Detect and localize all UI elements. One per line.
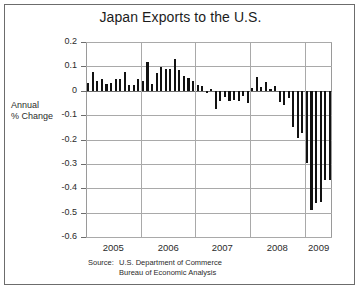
bar (297, 91, 299, 138)
y-axis-tick-label: 0.2 (43, 36, 77, 46)
bar (256, 77, 258, 91)
bar (146, 62, 148, 90)
plot-area: 0.20.10-0.1-0.2-0.3-0.4-0.5-0.6 20052006… (86, 42, 332, 237)
bar (215, 91, 217, 110)
bar (247, 91, 249, 103)
bar (292, 91, 294, 127)
chart-figure: Japan Exports to the U.S. Annual % Chang… (0, 0, 361, 293)
bar (96, 81, 98, 91)
bar (178, 70, 180, 91)
x-axis-tick-label: 2007 (202, 242, 242, 253)
bar (242, 91, 244, 96)
bar (283, 91, 285, 105)
zero-line (86, 91, 332, 92)
chart-title: Japan Exports to the U.S. (0, 9, 361, 25)
bar (306, 91, 308, 163)
bar (124, 72, 126, 91)
gridline (86, 213, 332, 214)
bar (128, 85, 130, 90)
bar (115, 79, 117, 91)
source-line-1: U.S. Department of Commerce (119, 258, 222, 267)
bar (279, 91, 281, 103)
x-axis-tick-label: 2009 (299, 242, 339, 253)
bar (137, 79, 139, 91)
y-axis-tick-label: -0.4 (43, 182, 77, 192)
bar (324, 91, 326, 181)
y-axis-tick (81, 188, 86, 189)
bar (87, 83, 89, 90)
gridline (86, 140, 332, 141)
gridline (86, 66, 332, 67)
x-axis-tick-label: 2006 (148, 242, 188, 253)
gridline (86, 188, 332, 189)
bar (233, 91, 235, 100)
y-axis-tick-label: 0.1 (43, 60, 77, 70)
bar (192, 81, 194, 91)
bar (206, 91, 208, 93)
year-gridline (195, 42, 196, 237)
y-axis-tick (81, 164, 86, 165)
bar (169, 69, 171, 91)
bar (329, 91, 331, 180)
bar (210, 89, 212, 91)
gridline (86, 42, 332, 43)
bar (288, 91, 290, 99)
y-axis-tick-label: -0.1 (43, 109, 77, 119)
bar (238, 91, 240, 101)
bar (260, 87, 262, 91)
bar (92, 72, 94, 91)
y-axis-tick-label: -0.5 (43, 207, 77, 217)
y-axis-tick-label: -0.6 (43, 231, 77, 241)
bar (133, 85, 135, 90)
y-axis-tick-label: 0 (43, 85, 77, 95)
bar (105, 84, 107, 91)
source-note: Source:U.S. Department of Commerce Burea… (88, 258, 222, 278)
bar (142, 81, 144, 90)
bar (274, 86, 276, 91)
source-line-2: Bureau of Economic Analysis (119, 268, 222, 278)
y-axis-tick (81, 237, 86, 238)
bar (269, 89, 271, 91)
bar (165, 69, 167, 91)
y-axis-tick (81, 66, 86, 67)
y-axis-tick (81, 115, 86, 116)
bar (224, 91, 226, 97)
bar (301, 91, 303, 133)
gridline (86, 115, 332, 116)
bar (219, 91, 221, 102)
bar (310, 91, 312, 210)
gridline (86, 237, 332, 238)
x-axis-tick-label: 2008 (257, 242, 297, 253)
bar (110, 83, 112, 90)
bar (151, 84, 153, 91)
bar (183, 76, 185, 91)
bar (160, 67, 162, 91)
year-gridline (250, 42, 251, 237)
y-axis-tick (81, 42, 86, 43)
bar (197, 85, 199, 91)
y-axis-tick (81, 213, 86, 214)
bar (101, 79, 103, 90)
bar (265, 82, 267, 91)
bar (315, 91, 317, 203)
bar (187, 78, 189, 91)
bar (201, 86, 203, 91)
bar (320, 91, 322, 202)
gridline (86, 164, 332, 165)
y-axis-tick-label: -0.3 (43, 158, 77, 168)
y-axis-tick (81, 91, 86, 92)
bar (156, 73, 158, 91)
source-label: Source: (88, 258, 119, 268)
bar (251, 88, 253, 91)
y-axis-tick (81, 140, 86, 141)
y-axis-tick-label: -0.2 (43, 134, 77, 144)
bar (119, 79, 121, 91)
bar (174, 59, 176, 91)
x-axis-tick-label: 2005 (93, 242, 133, 253)
bar (228, 91, 230, 101)
year-gridline (141, 42, 142, 237)
